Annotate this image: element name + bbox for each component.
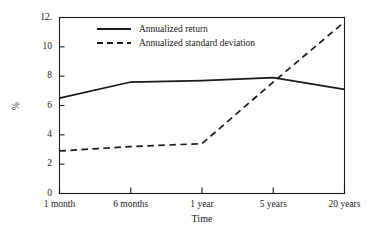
x-tick-label: 1 year — [190, 200, 213, 210]
x-tick-label: 6 months — [113, 200, 148, 210]
y-tick-label: 12. — [20, 13, 52, 23]
x-tick-label: 1 month — [44, 200, 75, 210]
y-tick-label: 2 — [20, 159, 52, 169]
y-tick-label: 10 — [20, 42, 52, 52]
y-axis-ticks — [60, 18, 65, 194]
y-tick-label: 8 — [20, 71, 52, 81]
x-axis-title: Time — [192, 213, 213, 224]
chart-figure: 024681012. 1 month6 months1 year5 years2… — [0, 0, 374, 233]
x-tick-label: 5 years — [260, 200, 287, 210]
y-axis-title: % — [11, 102, 21, 110]
legend-item-annualized-standard-deviation: Annualized standard deviation — [96, 36, 255, 50]
x-axis-ticks — [60, 188, 345, 194]
y-tick-label: 4 — [20, 130, 52, 140]
solid-line-icon — [96, 24, 132, 34]
x-tick-label: 20 years — [329, 200, 361, 210]
series-line — [60, 78, 345, 99]
y-tick-label: 6 — [20, 101, 52, 111]
legend-label: Annualized return — [139, 24, 208, 34]
y-tick-label: 0 — [20, 189, 52, 199]
dashed-line-icon — [96, 38, 132, 48]
chart-legend: Annualized return Annualized standard de… — [96, 22, 255, 50]
legend-label: Annualized standard deviation — [139, 38, 255, 48]
legend-item-annualized-return: Annualized return — [96, 22, 255, 36]
